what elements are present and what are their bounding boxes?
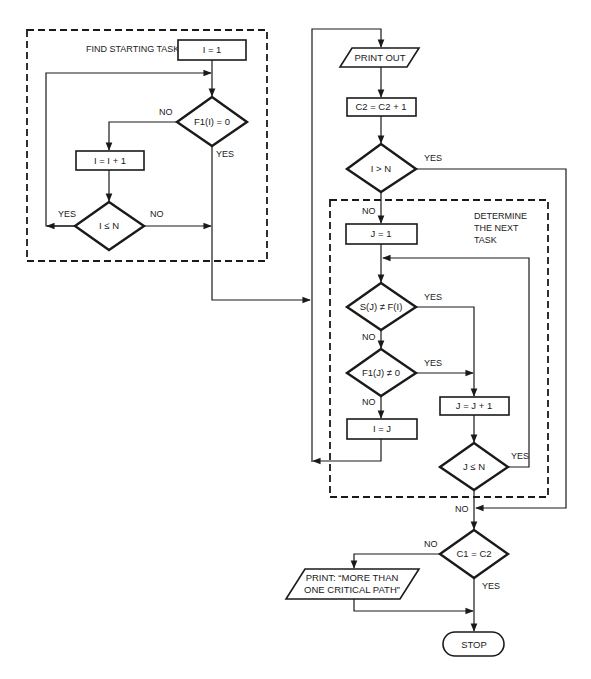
- decision-s-j-ne-f-i-text: S(J) ≠ F(I): [360, 301, 403, 312]
- edge-label-no: NO: [424, 539, 438, 549]
- edge-label-no: NO: [362, 206, 376, 216]
- decision-i-le-n-text: I ≤ N: [99, 220, 119, 231]
- edge-label-yes: YES: [424, 358, 442, 368]
- decision-f1-j-ne-0-text: F1(J) ≠ 0: [362, 367, 400, 378]
- determine-next-task-label-line2: THE NEXT: [474, 223, 519, 233]
- decision-c1-eq-c2-text: C1 = C2: [456, 548, 491, 559]
- decision-f1-i-eq-0-text: F1(I) = 0: [194, 116, 230, 127]
- edge-label-no: NO: [159, 107, 173, 117]
- process-c2-increment-text: C2 = C2 + 1: [355, 101, 406, 112]
- edge-label-yes: YES: [58, 209, 76, 219]
- decision-i-gt-n-text: I > N: [371, 163, 391, 174]
- determine-next-task-label-line1: DETERMINE: [474, 211, 527, 221]
- find-starting-task-label: FIND STARTING TASK: [86, 44, 179, 54]
- edge-label-no: NO: [455, 504, 469, 514]
- edge-label-yes: YES: [424, 153, 442, 163]
- process-i-increment-text: I = I + 1: [94, 155, 126, 166]
- io-print-out-text: PRINT OUT: [354, 52, 405, 63]
- io-print-multiple-paths-line2: ONE CRITICAL PATH”: [304, 584, 400, 595]
- io-print-multiple-paths-line1: PRINT: “MORE THAN: [306, 572, 399, 583]
- edge-label-no: NO: [362, 397, 376, 407]
- flowchart-canvas: FIND STARTING TASK I = 1 F1(I) = 0 NO I …: [0, 0, 591, 679]
- edge-label-yes: YES: [424, 292, 442, 302]
- process-i-eq-j-text: I = J: [373, 423, 391, 434]
- edge-label-yes: YES: [216, 149, 234, 159]
- terminal-stop-text: STOP: [461, 639, 487, 650]
- process-j-eq-1-text: J = 1: [371, 228, 392, 239]
- process-j-increment-text: J = J + 1: [456, 400, 492, 411]
- decision-j-le-n-text: J ≤ N: [463, 461, 485, 472]
- process-i-eq-1-text: I = 1: [203, 44, 222, 55]
- edge-label-yes: YES: [511, 451, 529, 461]
- determine-next-task-label-line3: TASK: [474, 235, 497, 245]
- edge-label-no: NO: [150, 209, 164, 219]
- edge-label-yes: YES: [482, 581, 500, 591]
- edge-label-no: NO: [362, 332, 376, 342]
